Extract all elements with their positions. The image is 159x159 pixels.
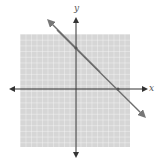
grid-area — [20, 34, 130, 147]
y-axis-label: y — [74, 3, 79, 13]
x-axis-label: x — [149, 83, 154, 93]
x-intercept-point — [116, 87, 119, 90]
coordinate-plane — [0, 0, 159, 159]
y-intercept-point — [74, 46, 77, 49]
